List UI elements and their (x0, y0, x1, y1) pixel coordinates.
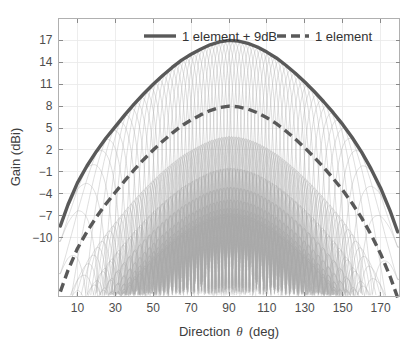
x-tick-label: 110 (257, 301, 276, 315)
y-tick-label: −1 (39, 165, 53, 179)
x-tick-label: 30 (109, 301, 123, 315)
y-tick-label: −4 (39, 187, 53, 201)
x-tick-label: 70 (184, 301, 198, 315)
chart-figure: 1030507090110130150170 171411852−1−4−7−1… (0, 0, 420, 353)
legend-label-one-element: 1 element (315, 29, 372, 44)
x-tick-label: 170 (371, 301, 391, 315)
y-tick-label: 17 (39, 33, 53, 47)
y-tick-label: 11 (40, 77, 53, 91)
legend-label-one-element-plus-9db: 1 element + 9dB (182, 29, 277, 44)
x-tick-label: 10 (71, 301, 85, 315)
x-tick-labels: 1030507090110130150170 (71, 301, 391, 315)
y-tick-label: 5 (46, 121, 53, 135)
y-axis-title: Gain (dBi) (8, 128, 23, 187)
y-tick-label: 2 (46, 143, 53, 157)
y-tick-label: −7 (39, 209, 53, 223)
x-axis-title-text: Direction (179, 324, 230, 339)
theta-symbol: θ (236, 324, 243, 339)
x-axis-units-text: (deg) (249, 324, 279, 339)
x-tick-label: 50 (147, 301, 161, 315)
x-tick-label: 150 (333, 301, 353, 315)
y-tick-label: 14 (39, 55, 53, 69)
x-tick-label: 130 (295, 301, 315, 315)
y-tick-label: −10 (32, 231, 53, 245)
x-tick-label: 90 (222, 301, 236, 315)
y-tick-label: 8 (46, 99, 53, 113)
beam-pattern-chart: 1030507090110130150170 171411852−1−4−7−1… (0, 0, 420, 353)
x-axis-title: Direction θ (deg) (179, 324, 279, 339)
